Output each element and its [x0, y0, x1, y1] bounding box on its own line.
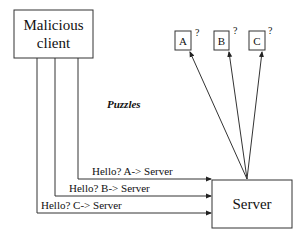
question-mark-b: ?	[233, 25, 238, 36]
puzzle-arrows	[190, 52, 262, 179]
puzzle-box-b-label: B	[218, 35, 225, 47]
puzzle-box-a: A ?	[175, 27, 200, 50]
client-label-line2: client	[37, 35, 71, 51]
message-arrow-a	[78, 58, 211, 179]
message-label-a: Hello? A-> Server	[92, 165, 173, 177]
puzzle-box-c: C ?	[249, 25, 273, 50]
question-mark-a: ?	[195, 27, 200, 38]
malicious-client-node: Malicious client	[14, 10, 93, 58]
puzzle-box-b: B ?	[214, 25, 238, 50]
message-label-c: Hello? C-> Server	[41, 199, 122, 211]
puzzle-box-c-label: C	[253, 35, 260, 47]
puzzle-arrow-c	[247, 52, 262, 179]
diagram-canvas: Malicious client Hello? A-> Server Hello…	[0, 0, 308, 237]
server-node: Server	[212, 180, 292, 228]
server-label: Server	[232, 196, 271, 212]
message-label-b: Hello? B-> Server	[69, 182, 150, 194]
puzzles-label: Puzzles	[107, 98, 141, 110]
client-label-line1: Malicious	[24, 17, 84, 33]
question-mark-c: ?	[268, 25, 273, 36]
puzzle-box-a-label: A	[179, 35, 187, 47]
